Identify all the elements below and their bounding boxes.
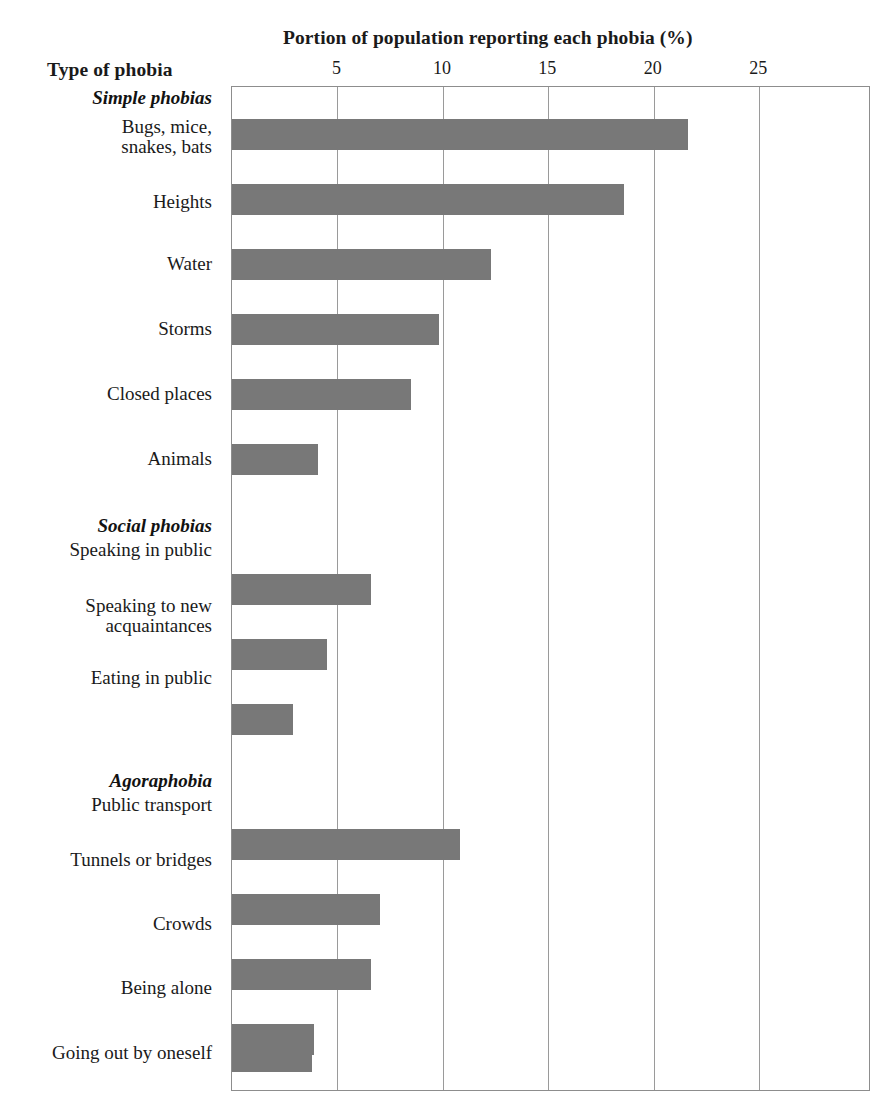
y-axis-title: Type of phobia xyxy=(47,59,173,81)
category-label: Speaking to new acquaintances xyxy=(0,596,212,636)
category-label: Water xyxy=(0,254,212,274)
group-label: Simple phobias xyxy=(0,88,212,108)
category-label: Closed places xyxy=(0,384,212,404)
x-tick-label: 25 xyxy=(749,58,767,79)
bar xyxy=(232,639,327,670)
group-label: Social phobias xyxy=(0,516,212,536)
bar-row xyxy=(232,574,869,605)
bar xyxy=(232,119,688,150)
bar xyxy=(232,959,371,990)
category-label: Heights xyxy=(0,192,212,212)
bar-row xyxy=(232,184,869,215)
bar-row xyxy=(232,444,869,475)
plot-area xyxy=(231,86,870,1091)
category-label: Speaking in public xyxy=(0,540,212,560)
x-tick-label: 10 xyxy=(433,58,451,79)
bar-row xyxy=(232,704,869,735)
bar xyxy=(232,1041,312,1072)
bar xyxy=(232,574,371,605)
bar xyxy=(232,184,624,215)
bar-chart: Portion of population reporting each pho… xyxy=(0,0,895,1118)
bar xyxy=(232,829,460,860)
category-label: Bugs, mice, snakes, bats xyxy=(0,117,212,157)
x-tick-label: 20 xyxy=(644,58,662,79)
group-label: Agoraphobia xyxy=(0,771,212,791)
bar xyxy=(232,704,293,735)
category-label: Eating in public xyxy=(0,668,212,688)
bar xyxy=(232,314,439,345)
x-tick-label: 15 xyxy=(538,58,556,79)
bar-row xyxy=(232,314,869,345)
category-label: Crowds xyxy=(0,914,212,934)
bar-row xyxy=(232,959,869,990)
category-label: Tunnels or bridges xyxy=(0,850,212,870)
x-tick-label: 5 xyxy=(332,58,341,79)
bar-row xyxy=(232,249,869,280)
bar-row xyxy=(232,1041,869,1072)
bar xyxy=(232,444,318,475)
bar xyxy=(232,894,380,925)
bar-row xyxy=(232,639,869,670)
category-label: Storms xyxy=(0,319,212,339)
bar-row xyxy=(232,379,869,410)
category-label: Public transport xyxy=(0,795,212,815)
bar-row xyxy=(232,829,869,860)
bar-row xyxy=(232,894,869,925)
chart-title: Portion of population reporting each pho… xyxy=(283,27,693,49)
category-label: Going out by oneself xyxy=(0,1043,212,1063)
category-label: Being alone xyxy=(0,978,212,998)
bar xyxy=(232,249,491,280)
bar xyxy=(232,379,411,410)
bar-row xyxy=(232,119,869,150)
category-label: Animals xyxy=(0,449,212,469)
